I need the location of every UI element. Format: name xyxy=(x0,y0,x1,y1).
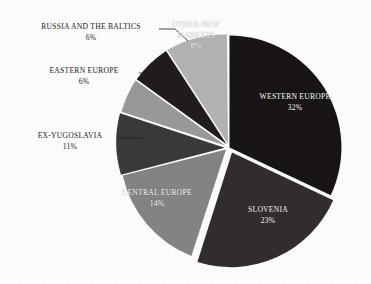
slice-label-text: CENTRAL EUROPE xyxy=(122,188,192,197)
slice-label-text: EASTERN EUROPE xyxy=(49,66,118,75)
slice-label-percent: 11% xyxy=(7,142,133,153)
slice-label-percent: 14% xyxy=(107,199,207,210)
pie-chart-figure: RUSSIA AND THE BALTICS 6% EASTERN EUROPE… xyxy=(0,0,371,284)
slice-label-text: WESTERN EUROPE xyxy=(260,92,331,101)
slice-label-other-new-markets: OTHER-NEW MARKETS 8% xyxy=(159,20,233,52)
slice-label-percent: 8% xyxy=(159,41,233,52)
slice-label-eastern-europe: EASTERN EUROPE 6% xyxy=(20,66,148,87)
slice-label-central-europe: CENTRAL EUROPE 14% xyxy=(107,188,207,209)
slice-label-text: SLOVENIA xyxy=(248,205,288,214)
slice-label-text-line1: OTHER-NEW xyxy=(172,20,219,29)
slice-label-percent: 6% xyxy=(20,77,148,88)
slice-label-text-line2: MARKETS xyxy=(159,31,233,42)
slice-label-percent: 23% xyxy=(226,216,310,227)
slice-label-text: EX-YUGOSLAVIA xyxy=(38,131,103,140)
slice-label-text: RUSSIA AND THE BALTICS xyxy=(41,22,140,31)
slice-label-western-europe: WESTERN EUROPE 32% xyxy=(247,92,343,113)
slice-label-ex-yugoslavia: EX-YUGOSLAVIA 11% xyxy=(7,131,133,152)
slice-label-russia-and-the-baltics: RUSSIA AND THE BALTICS 6% xyxy=(21,22,161,43)
slice-label-slovenia: SLOVENIA 23% xyxy=(226,205,310,226)
slice-label-percent: 32% xyxy=(247,103,343,114)
slice-label-percent: 6% xyxy=(21,33,161,44)
